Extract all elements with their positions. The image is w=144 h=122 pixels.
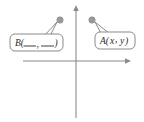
axes-group bbox=[23, 5, 131, 118]
point-b-marker bbox=[57, 17, 63, 23]
callout-b-label-prefix: B( bbox=[15, 38, 25, 49]
diagram-canvas: B( , ) A( x , y ) bbox=[0, 0, 144, 122]
callout-a-label-suffix: ) bbox=[124, 36, 128, 47]
vertical-axis-arrowhead-icon bbox=[73, 5, 78, 11]
coordinate-plane-figure: B( , ) A( x , y ) bbox=[0, 0, 144, 122]
callout-a: A( x , y ) bbox=[95, 32, 135, 49]
callout-b-label-separator: , bbox=[37, 39, 39, 49]
callout-a-label-prefix: A( bbox=[99, 36, 110, 47]
callout-b-label-suffix: ) bbox=[54, 38, 58, 49]
point-a-marker bbox=[89, 17, 95, 23]
callout-a-label-separator: , bbox=[115, 34, 117, 44]
callout-b: B( , ) bbox=[10, 34, 63, 51]
horizontal-axis-arrowhead-icon bbox=[125, 58, 131, 63]
